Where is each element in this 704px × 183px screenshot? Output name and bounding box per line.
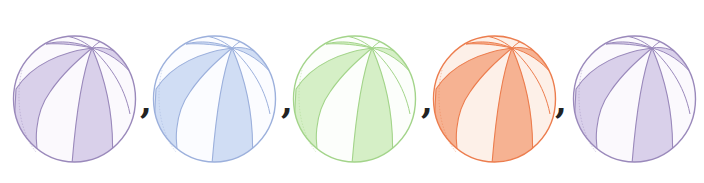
beach-ball-purple (12, 34, 138, 164)
comma-separator: , (140, 84, 152, 118)
beach-ball-orange (432, 34, 558, 164)
beach-ball-icon (572, 34, 698, 164)
beach-ball-icon (152, 34, 278, 164)
beach-ball-green (292, 34, 418, 164)
beach-ball-icon (292, 34, 418, 164)
beach-ball-icon (432, 34, 558, 164)
beach-ball-sequence: , , (0, 0, 704, 183)
beach-ball-blue (152, 34, 278, 164)
comma-separator: , (555, 84, 567, 118)
beach-ball-purple-2 (572, 34, 698, 164)
beach-ball-icon (12, 34, 138, 164)
